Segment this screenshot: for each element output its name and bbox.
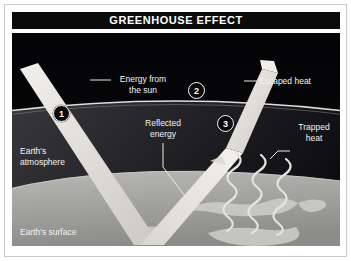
greenhouse-effect-figure: GREENHOUSE EFFECT <box>0 0 351 261</box>
label-reflected-energy: Reflected energy <box>132 118 194 139</box>
label-earths-atmosphere: Earth's atmosphere <box>20 146 65 167</box>
diagram-scene: Energy from the sun Escaped heat Reflect… <box>12 33 340 246</box>
label-earths-surface: Earth's surface <box>20 227 76 238</box>
diagram-canvas <box>12 33 340 246</box>
callout-2: 2 <box>188 82 205 99</box>
figure-title-bar: GREENHOUSE EFFECT <box>12 12 340 29</box>
figure-title: GREENHOUSE EFFECT <box>109 15 242 26</box>
label-trapped-heat: Trapped heat <box>292 122 336 143</box>
callout-3: 3 <box>217 115 234 132</box>
label-escaped-heat: Escaped heat <box>259 76 311 87</box>
label-energy-from-sun: Energy from the sun <box>112 74 174 95</box>
callout-1: 1 <box>53 105 70 122</box>
